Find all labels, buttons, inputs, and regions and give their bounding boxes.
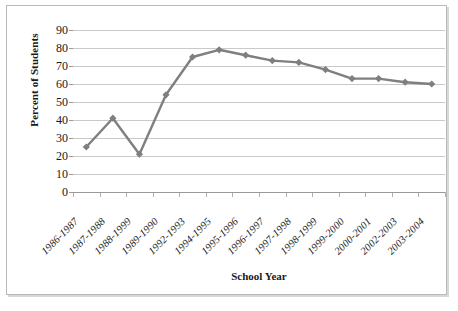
y-axis-tick-label: 90 — [42, 23, 68, 38]
data-point-marker — [269, 57, 276, 64]
chart-frame: Percent of Students 9080706050403020100 … — [6, 5, 447, 295]
y-axis-tick-label: 30 — [42, 131, 68, 146]
y-axis-tick-label: 60 — [42, 77, 68, 92]
x-axis-line — [73, 192, 445, 193]
series-markers — [83, 46, 436, 158]
x-axis-title: School Year — [73, 270, 445, 282]
y-axis-tick-label: 40 — [42, 113, 68, 128]
y-axis-tick-label: 50 — [42, 95, 68, 110]
data-point-marker — [322, 66, 329, 73]
data-point-marker — [402, 79, 409, 86]
data-point-marker — [242, 52, 249, 59]
plot-area: 9080706050403020100 1986-19871987-198819… — [73, 30, 445, 192]
line-series — [73, 30, 445, 192]
data-point-marker — [428, 80, 435, 87]
chart-figure: Percent of Students 9080706050403020100 … — [0, 0, 458, 311]
x-axis-tick-mark — [445, 192, 446, 197]
data-point-marker — [295, 59, 302, 66]
y-axis-title: Percent of Students — [28, 0, 40, 160]
data-point-marker — [348, 75, 355, 82]
y-axis-tick-label: 80 — [42, 41, 68, 56]
y-axis-tick-label: 70 — [42, 59, 68, 74]
y-axis-tick-label: 20 — [42, 149, 68, 164]
y-axis-tick-label: 10 — [42, 167, 68, 182]
series-polyline — [86, 50, 431, 154]
data-point-marker — [216, 46, 223, 53]
y-axis-tick-label: 0 — [42, 185, 68, 200]
data-point-marker — [375, 75, 382, 82]
